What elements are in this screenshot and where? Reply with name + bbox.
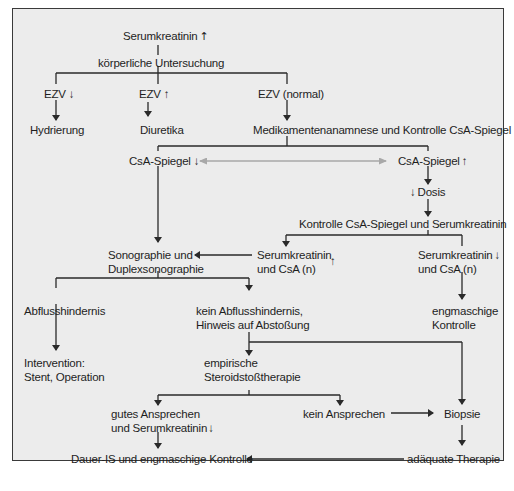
node-dauer-is: Dauer-IS und engmaschige Kontrolle — [71, 452, 253, 466]
node-serum-csa-high-line1: Serumkreatinin — [257, 248, 332, 262]
node-ezv-low: EZV↓ — [44, 87, 74, 101]
node-biopsie: Biopsie — [444, 407, 480, 421]
down-arrow-icon: ↓ — [495, 249, 501, 261]
node-sonographie-line2: Duplexsonographie — [108, 262, 204, 276]
node-empirische-line2: Steroidstoßtherapie — [204, 370, 301, 384]
node-kontrolle-csa-serum: Kontrolle CsA-Spiegel und Serumkreatinin — [299, 217, 506, 231]
node-kein-ansprechen: kein Ansprechen — [303, 407, 385, 421]
node-koerperliche-untersuchung: körperliche Untersuchung — [98, 56, 224, 70]
node-serum-csa-low-line2: und CsA (n) — [418, 262, 477, 276]
down-arrow-icon: ↓ — [208, 422, 214, 434]
node-ezv-normal: EZV (normal) — [258, 87, 324, 101]
node-csa-spiegel-low: CsA-Spiegel↓ — [129, 154, 199, 168]
node-ezv-high: EZV↑ — [139, 87, 169, 101]
node-serum-csa-high-line2: und CsA (n) — [257, 262, 316, 276]
node-diuretika: Diuretika — [140, 123, 184, 137]
down-arrow-icon: ↓ — [69, 88, 75, 100]
node-hydrierung: Hydrierung — [30, 123, 84, 137]
node-intervention-line2: Stent, Operation — [24, 370, 105, 384]
node-adaequate-therapie: adäquate Therapie — [407, 452, 500, 466]
node-serum-csa-low-line1: Serumkreatinin↓ — [418, 248, 500, 262]
node-intervention-line1: Intervention: — [24, 356, 85, 370]
node-sonographie-line1: Sonographie und — [108, 248, 193, 262]
down-arrow-icon: ↓ — [194, 155, 200, 167]
node-serumkreatinin-up: Serumkreatinin↑ — [123, 29, 209, 43]
up-arrow-icon: ↑ — [164, 88, 170, 100]
node-gutes-ansprechen-line2: und Serumkreatinin↓ — [111, 421, 214, 435]
node-abflusshindernis: Abflusshindernis — [24, 304, 105, 318]
node-dosis-reduce: ↓Dosis — [410, 185, 445, 199]
node-engmaschige-line1: engmaschige — [432, 304, 498, 318]
up-arrow-icon: ↑ — [200, 30, 209, 43]
down-arrow-icon: ↓ — [410, 186, 416, 198]
flowchart-connectors — [0, 0, 514, 491]
up-arrow-icon: ↑ — [462, 155, 468, 167]
node-medikamentenanamnese: Medikamentenanamnese und Kontrolle CsA-S… — [253, 123, 511, 137]
node-engmaschige-line2: Kontrolle — [432, 318, 476, 332]
node-kein-abfluss-line2: Hinweis auf Abstoßung — [196, 318, 309, 332]
up-arrow-icon: ↑ — [330, 254, 336, 268]
node-csa-spiegel-high: CsA-Spiegel↑ — [398, 154, 467, 168]
node-empirische-line1: empirische — [204, 356, 258, 370]
node-kein-abfluss-line1: kein Abflusshindernis, — [196, 304, 303, 318]
node-gutes-ansprechen-line1: gutes Ansprechen — [111, 407, 200, 421]
